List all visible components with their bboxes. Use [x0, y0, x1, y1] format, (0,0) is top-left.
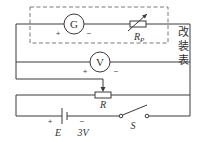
voltmeter-plus: + — [83, 67, 88, 76]
slider-arrow-icon — [101, 87, 106, 92]
switch-blade — [123, 105, 148, 115]
variable-resistor: RP — [128, 14, 147, 44]
circuit-diagram: G + − RP 改 装 表 V + − R — [0, 0, 201, 142]
battery-label: E — [54, 127, 61, 138]
rheostat-label: R — [99, 99, 106, 110]
battery-minus: − — [80, 117, 85, 126]
galvanometer-label: G — [70, 18, 78, 30]
modified-meter-label: 改 装 表 — [178, 25, 189, 67]
battery-emf: 3V — [76, 127, 90, 138]
battery-plus: + — [48, 117, 53, 126]
slider-wire — [16, 79, 106, 92]
switch-terminal-left — [119, 114, 123, 118]
svg-text:表: 表 — [178, 53, 189, 67]
svg-text:改: 改 — [178, 25, 189, 39]
switch-label: S — [131, 120, 136, 131]
rp-label: RP — [133, 31, 145, 44]
voltmeter-label: V — [96, 56, 104, 68]
galvanometer-plus: + — [56, 29, 61, 38]
svg-text:装: 装 — [178, 40, 189, 53]
galvanometer-minus: − — [87, 29, 92, 38]
voltmeter-minus: − — [114, 67, 119, 76]
galvanometer: G + − — [56, 14, 92, 38]
switch-terminal-right — [145, 114, 149, 118]
rheostat: R — [16, 92, 190, 110]
modified-meter-box — [30, 7, 168, 43]
voltmeter-branch: V + − — [16, 52, 190, 76]
